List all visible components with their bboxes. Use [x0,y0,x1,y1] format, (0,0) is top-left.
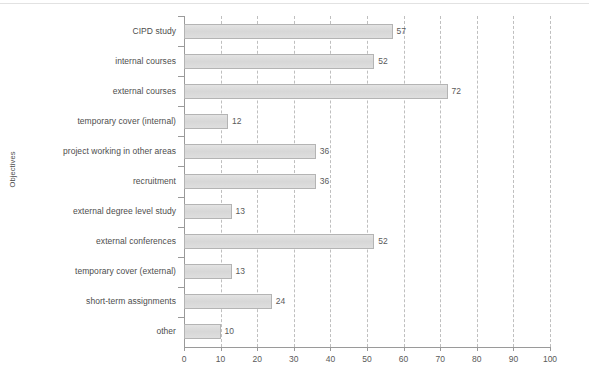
bar-row: 12 [184,114,550,129]
x-tick-10 [221,347,222,351]
x-tick-40 [330,347,331,351]
bar [184,324,221,339]
x-tick-label-60: 60 [384,354,424,364]
y-tick [178,317,184,318]
bar [184,84,448,99]
plot-area: 5752721236361352132410 [184,16,550,347]
bar-row: 24 [184,294,550,309]
x-tick-100 [550,347,551,351]
y-tick [178,136,184,137]
bar-row: 13 [184,204,550,219]
y-tick [178,46,184,47]
bar-value-label: 36 [320,146,329,156]
y-tick [178,227,184,228]
bar-value-label: 13 [236,266,245,276]
x-tick-label-20: 20 [237,354,277,364]
bar-row: 10 [184,324,550,339]
bar-row: 13 [184,264,550,279]
x-tick-label-10: 10 [201,354,241,364]
category-label: other [4,326,184,336]
x-tick-label-0: 0 [164,354,204,364]
bar [184,114,228,129]
category-label: external degree level study [4,206,184,216]
x-tick-label-90: 90 [493,354,533,364]
bar-value-label: 13 [236,206,245,216]
x-tick-label-80: 80 [457,354,497,364]
x-tick-label-50: 50 [347,354,387,364]
x-tick-90 [513,347,514,351]
x-tick-label-70: 70 [420,354,460,364]
top-divider-rule [0,3,589,4]
gridline-100 [550,16,551,347]
bar-value-label: 24 [276,296,285,306]
category-label: temporary cover (internal) [4,116,184,126]
x-tick-70 [440,347,441,351]
bar [184,264,232,279]
bar [184,204,232,219]
bar-value-label: 10 [225,326,234,336]
bar-value-label: 52 [378,236,387,246]
bar [184,24,393,39]
y-tick [178,257,184,258]
bar-value-label: 72 [452,86,461,96]
y-tick [178,106,184,107]
bar [184,234,374,249]
bar-row: 52 [184,54,550,69]
bar-row: 36 [184,174,550,189]
bar-value-label: 12 [232,116,241,126]
x-tick-0 [184,347,185,351]
y-tick [178,16,184,17]
x-tick-50 [367,347,368,351]
bar [184,54,374,69]
bar [184,174,316,189]
bar-row: 72 [184,84,550,99]
y-tick [178,287,184,288]
bar-value-label: 36 [320,176,329,186]
bar-row: 52 [184,234,550,249]
x-tick-label-100: 100 [530,354,570,364]
category-label: recruitment [4,176,184,186]
category-label: CIPD study [4,26,184,36]
x-tick-label-40: 40 [310,354,350,364]
bar-value-label: 57 [397,26,406,36]
category-axis-labels: CIPD studyinternal coursesexternal cours… [0,16,184,347]
category-label: short-term assignments [4,296,184,306]
bar-row: 57 [184,24,550,39]
category-label: project working in other areas [4,146,184,156]
y-tick [178,197,184,198]
y-tick [178,76,184,77]
bar [184,294,272,309]
x-tick-20 [257,347,258,351]
category-label: temporary cover (external) [4,266,184,276]
category-label: external courses [4,86,184,96]
bar-chart-figure: Objectives CIPD studyinternal coursesext… [0,0,589,390]
x-tick-30 [294,347,295,351]
bar-row: 36 [184,144,550,159]
y-tick [178,166,184,167]
category-label: external conferences [4,236,184,246]
bar-value-label: 52 [378,56,387,66]
x-tick-80 [477,347,478,351]
x-tick-60 [404,347,405,351]
x-tick-label-30: 30 [274,354,314,364]
category-label: internal courses [4,56,184,66]
bar [184,144,316,159]
